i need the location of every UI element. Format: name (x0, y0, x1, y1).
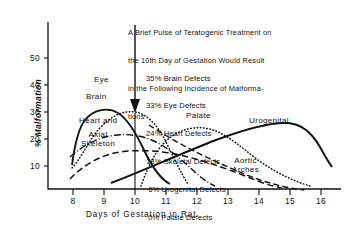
y-tick-label-30: 30 (18, 107, 40, 117)
x-tick-label-13: 13 (220, 196, 236, 206)
defect-item-brain: 35% Brain Defects (146, 74, 226, 83)
curve-label-eye: Eye (94, 75, 109, 84)
y-tick-label-10: 10 (18, 161, 40, 171)
y-tick-label-20: 20 (18, 134, 40, 144)
curve-label-arches: Arches (232, 165, 259, 174)
x-axis-title: Days of Gestation in Rat (86, 210, 196, 219)
curve-label-heart: Heart and (79, 116, 117, 125)
curve-label-urogenital: Urogenital (249, 116, 289, 125)
x-tick-label-15: 15 (282, 196, 298, 206)
x-tick-label-11: 11 (158, 196, 174, 206)
curve-label-palate: Palate (186, 111, 211, 120)
x-tick-label-9: 9 (96, 196, 112, 206)
x-tick-label-8: 8 (65, 196, 81, 206)
x-tick-label-10: 10 (127, 196, 143, 206)
defect-item-skeletal: 18% Skeletal Defects (146, 157, 226, 166)
annotation-line-1: A Brief Pulse of Teratogenic Treatment o… (128, 28, 272, 37)
curve-label-brain: Brain (86, 92, 106, 101)
x-tick-label-12: 12 (189, 196, 205, 206)
curve-label-axial-skeleton: AxialSkeleton (81, 131, 115, 148)
x-tick-label-14: 14 (251, 196, 267, 206)
y-tick-label-40: 40 (18, 80, 40, 90)
defect-item-urogenital: 6% Urogenital Defects (146, 185, 226, 194)
curve-label-aortic-arches: AorticArches (232, 157, 259, 174)
y-tick-label-50: 50 (18, 53, 40, 63)
teratogenic-malformation-figure: A Brief Pulse of Teratogenic Treatment o… (0, 0, 348, 229)
curve-label-skeleton: Skeleton (81, 139, 115, 148)
defect-item-heart: 24% Heart Defects (146, 129, 226, 138)
x-tick-label-16: 16 (313, 196, 329, 206)
defect-item-eye: 33% Eye Defects (146, 101, 226, 110)
